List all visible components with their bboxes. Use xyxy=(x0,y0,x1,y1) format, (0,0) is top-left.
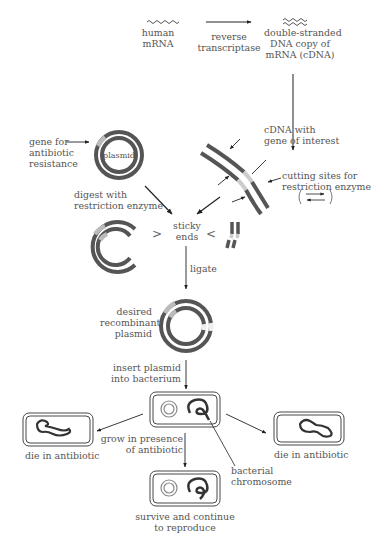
bacterium-survivor-icon xyxy=(150,471,220,506)
pointer-bacterial-chromosome xyxy=(210,421,235,466)
mrna-squiggle-icon xyxy=(147,21,179,24)
label-cdna-gene: cDNA with gene of interest xyxy=(264,124,339,146)
label-cutting-sites: cutting sites for restriction enzyme xyxy=(282,170,371,192)
cdna-fragment-icon xyxy=(227,222,238,248)
label-recombinant: desired recombinant plasmid xyxy=(100,306,152,339)
cdna-squiggle-icon xyxy=(283,19,307,22)
label-sticky-ends: sticky ends xyxy=(170,220,204,242)
diagram-canvas: > < xyxy=(0,0,376,551)
label-bacterial-chromosome: bacterial chromosome xyxy=(231,465,292,487)
bacterium-with-plasmid-icon xyxy=(150,392,220,427)
label-die-left: die in antibiotic xyxy=(25,450,100,461)
bacterium-left-icon xyxy=(23,413,93,446)
label-reverse-transcriptase: reverse transcriptase xyxy=(196,31,262,53)
arrow-digest-cdna xyxy=(197,197,220,214)
label-plasmid: plasmid xyxy=(101,150,137,161)
label-grow: grow in presence of antibiotic xyxy=(100,433,183,455)
label-digest: digest with restriction enzyme xyxy=(74,189,163,211)
label-gene-resistance: gene for antibiotic resistance xyxy=(29,136,78,169)
arrow-die-right xyxy=(226,414,266,433)
cutting-sites-symbol xyxy=(299,190,332,204)
svg-text:>: > xyxy=(152,227,162,241)
label-insert: insert plasmid into bacterium xyxy=(110,362,181,384)
label-survive: survive and continue to reproduce xyxy=(135,511,235,533)
recombinant-plasmid-icon xyxy=(161,301,211,351)
label-cdna: double-stranded DNA copy of mRNA (cDNA) xyxy=(264,27,336,60)
svg-text:<: < xyxy=(206,227,216,241)
open-plasmid-icon xyxy=(93,222,135,272)
arrow-die-left xyxy=(97,414,143,431)
label-die-right: die in antibiotic xyxy=(274,449,349,460)
label-ligate: ligate xyxy=(190,263,217,274)
bacterium-right-icon xyxy=(274,412,344,445)
label-human-mrna: human mRNA xyxy=(140,27,176,49)
